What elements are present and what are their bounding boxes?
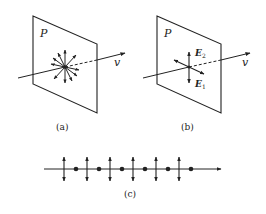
velocity-label-a: v bbox=[114, 56, 121, 69]
ray-outgoing bbox=[97, 53, 125, 60]
caption-b: (b) bbox=[181, 122, 194, 132]
panel-a: P v (a) bbox=[18, 16, 125, 132]
perpendicular-polarization-dot bbox=[97, 167, 102, 172]
ray-dashed bbox=[189, 60, 221, 67]
perpendicular-polarization-dot bbox=[189, 167, 194, 172]
perpendicular-polarization-dot bbox=[74, 167, 79, 172]
velocity-label-b: v bbox=[242, 56, 249, 69]
e-field-vectors bbox=[51, 50, 79, 83]
e2-label: E2 bbox=[194, 48, 206, 59]
perpendicular-polarization-dot bbox=[120, 167, 125, 172]
caption-c: (c) bbox=[124, 189, 136, 199]
panel-c: (c) bbox=[44, 157, 221, 199]
perpendicular-polarization-dot bbox=[166, 167, 171, 172]
e1-label: E1 bbox=[194, 79, 206, 90]
plane-label-a: P bbox=[39, 27, 48, 40]
diagram-canvas: P v (a) P v E2 E1 (b) (c) bbox=[0, 0, 266, 214]
caption-a: (a) bbox=[56, 122, 68, 132]
ray-incoming bbox=[143, 67, 189, 78]
perpendicular-polarization-dot bbox=[143, 167, 148, 172]
panel-b: P v E2 E1 (b) bbox=[143, 16, 250, 132]
plane-label-b: P bbox=[163, 27, 172, 40]
ray-incoming bbox=[18, 67, 65, 78]
